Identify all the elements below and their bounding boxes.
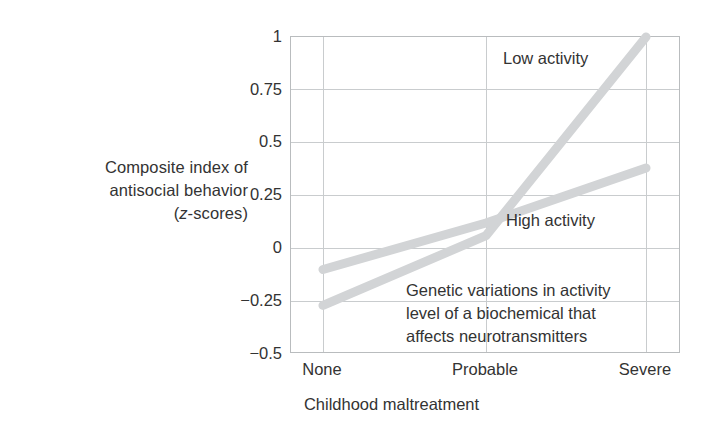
y-tick-label: 0.25 bbox=[222, 185, 282, 204]
y-axis-title-line-2: antisocial behavior bbox=[8, 179, 248, 202]
y-axis-title: Composite index of antisocial behavior (… bbox=[8, 156, 248, 225]
y-axis-title-z-italic: z bbox=[179, 204, 187, 222]
plot-area: Low activity High activity Genetic varia… bbox=[290, 36, 680, 353]
y-tick-label: 0 bbox=[222, 238, 282, 257]
y-axis-title-line-3: (z-scores) bbox=[8, 202, 248, 225]
y-tick-label: 1 bbox=[222, 27, 282, 46]
line-low-activity bbox=[323, 37, 646, 305]
y-axis-title-line-1: Composite index of bbox=[8, 156, 248, 179]
y-tick-label: 0.75 bbox=[222, 80, 282, 99]
annotation-high-activity: High activity bbox=[506, 209, 595, 231]
y-tick-label: 0.5 bbox=[222, 132, 282, 151]
x-tick-label: Probable bbox=[452, 360, 518, 379]
x-axis-title: Childhood maltreatment bbox=[0, 395, 705, 414]
figure-container: Composite index of antisocial behavior (… bbox=[0, 0, 705, 445]
x-tick-label: None bbox=[302, 360, 341, 379]
y-tick-label: −0.5 bbox=[222, 344, 282, 363]
annotation-note: Genetic variations in activity level of … bbox=[406, 279, 611, 348]
y-axis-tick-labels: 1 0.75 0.5 0.25 0 −0.25 −0.5 bbox=[218, 0, 282, 445]
line-high-activity bbox=[323, 168, 646, 269]
x-tick-label: Severe bbox=[619, 360, 671, 379]
annotation-low-activity: Low activity bbox=[503, 47, 588, 69]
x-axis-title-text: Childhood maltreatment bbox=[304, 395, 479, 414]
y-tick-label: −0.25 bbox=[222, 291, 282, 310]
